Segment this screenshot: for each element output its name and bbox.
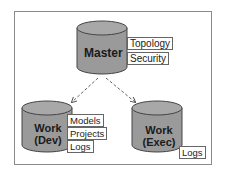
work-exec-label: Work (Exec) (140, 124, 178, 148)
master-label: Master (84, 47, 123, 59)
work-exec-label-line2: (Exec) (140, 136, 178, 148)
work-dev-label: Work (Dev) (30, 122, 66, 146)
tag-dev-logs: Logs (67, 140, 94, 153)
tag-exec-logs: Logs (179, 146, 206, 159)
edge-master-to-exec (106, 78, 135, 102)
edge-master-to-dev (72, 78, 98, 102)
tag-projects: Projects (67, 127, 107, 140)
work-exec-label-line1: Work (140, 124, 178, 136)
work-dev-label-line2: (Dev) (30, 134, 66, 146)
tag-security: Security (127, 52, 169, 65)
work-dev-label-line1: Work (30, 122, 66, 134)
tag-models: Models (67, 114, 104, 127)
tag-topology: Topology (127, 37, 173, 50)
